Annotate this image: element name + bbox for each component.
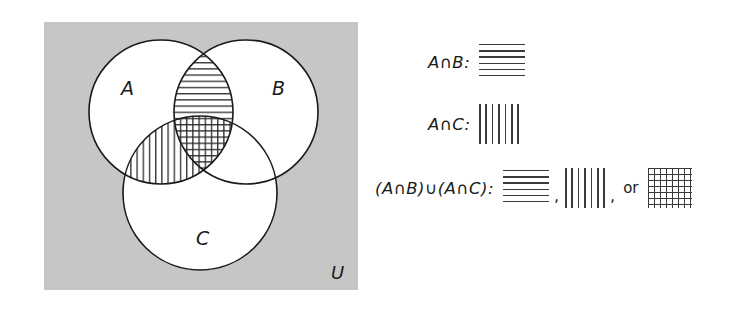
set-label-a: A [119, 77, 134, 99]
legend-panel: A∩B: A∩C: (A∩B)∪(A∩C): , , or [380, 0, 740, 309]
set-label-c: C [196, 227, 210, 249]
legend-row-union-of-intersections: (A∩B)∪(A∩C): , , or [375, 168, 692, 208]
universe-label: U [331, 262, 344, 283]
legend-or-word: or [621, 179, 647, 197]
legend-label-a-intersect-b: A∩B: [428, 53, 470, 72]
legend-row-a-intersect-c: A∩C: [428, 104, 519, 144]
legend-separator-second: , [605, 188, 621, 204]
legend-separator-first: , [549, 188, 565, 204]
swatch-vertical-lines [479, 104, 519, 144]
legend-label-union-of-intersections: (A∩B)∪(A∩C): [375, 179, 494, 198]
swatch-horizontal-lines-union [503, 170, 549, 206]
swatch-crosshatch-union [648, 168, 692, 208]
set-label-b: B [272, 77, 285, 99]
venn-diagram-panel: A B C U [0, 0, 380, 309]
legend-label-a-intersect-c: A∩C: [428, 115, 470, 134]
swatch-vertical-lines-union [565, 168, 605, 208]
venn-diagram-svg: A B C U [0, 0, 380, 309]
legend-row-a-intersect-b: A∩B: [428, 44, 525, 80]
swatch-horizontal-lines [479, 44, 525, 80]
